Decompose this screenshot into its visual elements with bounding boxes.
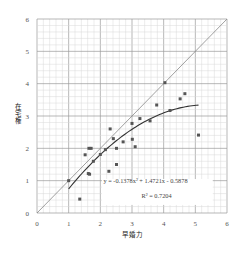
data-point — [131, 138, 134, 141]
data-point — [134, 145, 137, 148]
data-point — [88, 173, 91, 176]
y-tick-label: 1 — [26, 177, 30, 185]
y-tick-label: 3 — [26, 113, 30, 121]
x-tick-label: 1 — [67, 220, 71, 228]
data-point — [112, 137, 115, 140]
data-point — [115, 147, 118, 150]
y-tick-label: 4 — [26, 80, 30, 88]
data-point — [109, 127, 112, 130]
data-point — [92, 160, 95, 163]
x-tick-label: 2 — [99, 220, 103, 228]
x-tick-label: 4 — [162, 220, 166, 228]
y-tick-label: 5 — [26, 48, 30, 56]
y-axis-title: 在 宅 権 — [15, 102, 22, 125]
data-point — [104, 148, 107, 151]
y-tick-label: 0 — [26, 210, 30, 218]
data-point — [84, 153, 87, 156]
data-point — [90, 147, 93, 150]
data-point — [183, 92, 186, 95]
data-point — [163, 81, 166, 84]
x-tick-label: 5 — [194, 220, 198, 228]
data-point — [155, 104, 158, 107]
data-point — [169, 109, 172, 112]
data-point — [122, 140, 125, 143]
data-point — [115, 163, 118, 166]
x-axis-title: 早婚力 — [122, 230, 143, 239]
data-point — [131, 122, 134, 125]
data-point — [197, 134, 200, 137]
x-tick-label: 0 — [35, 220, 39, 228]
fit-equation-label: y = -0.1378x² + 1.4721x - 0.5878 — [104, 177, 188, 184]
y-tick-label: 2 — [26, 145, 30, 153]
data-point — [67, 179, 70, 182]
data-point — [78, 198, 81, 201]
data-point — [107, 170, 110, 173]
y-tick-label: 6 — [26, 16, 30, 24]
scatter-chart: 01234560123456 y = -0.1378x² + 1.4721x -… — [0, 0, 241, 253]
x-tick-label: 3 — [130, 220, 134, 228]
data-point — [138, 117, 141, 120]
data-point — [99, 153, 102, 156]
data-point — [149, 119, 152, 122]
data-point — [179, 97, 182, 100]
r-squared-label: R² = 0.7204 — [142, 192, 173, 199]
x-tick-label: 6 — [225, 220, 229, 228]
y-axis-title-char: 権 — [15, 116, 22, 125]
